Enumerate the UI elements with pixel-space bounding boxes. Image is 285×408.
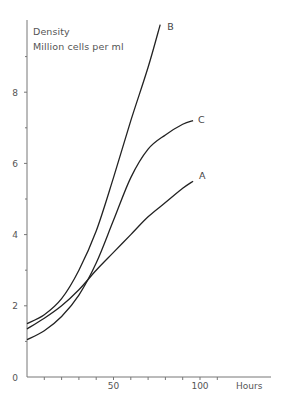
y-tick-label: 2 bbox=[12, 301, 18, 311]
curve-c bbox=[27, 121, 193, 340]
y-axis-label-line1: Density bbox=[33, 26, 70, 37]
curve-b bbox=[27, 25, 160, 324]
y-axis-label-line2: Million cells per ml bbox=[33, 41, 124, 52]
y-tick-label: 8 bbox=[12, 88, 18, 98]
curve-label-b: B bbox=[167, 21, 174, 32]
line-chart: 0246850100 BCA Hours bbox=[0, 0, 285, 408]
x-axis-label: Hours bbox=[236, 381, 263, 391]
ticks: 0246850100 bbox=[12, 57, 217, 391]
curves bbox=[27, 25, 193, 340]
x-tick-label: 50 bbox=[108, 381, 120, 391]
curve-a bbox=[27, 181, 193, 329]
curve-labels: BCA bbox=[167, 21, 206, 182]
axes bbox=[27, 20, 271, 377]
curve-label-a: A bbox=[199, 170, 206, 181]
curve-label-c: C bbox=[198, 114, 205, 125]
y-tick-label: 6 bbox=[12, 159, 18, 169]
y-tick-label: 0 bbox=[12, 373, 18, 383]
y-tick-label: 4 bbox=[12, 230, 18, 240]
x-tick-label: 100 bbox=[191, 381, 208, 391]
